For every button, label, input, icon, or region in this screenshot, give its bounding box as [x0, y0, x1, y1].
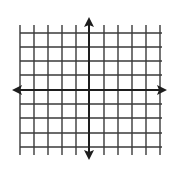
axes: [12, 17, 167, 160]
coordinate-plane: [0, 0, 175, 171]
